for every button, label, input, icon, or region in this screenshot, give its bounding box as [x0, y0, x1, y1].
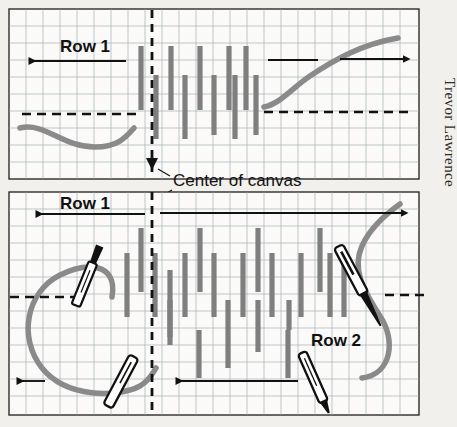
- credit-line: Trevor Lawrence: [436, 78, 457, 248]
- diagram-canvas: Row 1 Center of canvas: [0, 0, 457, 427]
- panel-bottom: Row 1 Row 2: [9, 192, 427, 415]
- panel-top: Row 1: [9, 9, 419, 179]
- label-row-1-bottom: Row 1: [60, 194, 110, 213]
- label-center-of-canvas: Center of canvas: [173, 171, 302, 190]
- label-row-2: Row 2: [311, 331, 361, 350]
- stitch-diagram-figure: Row 1 Center of canvas: [0, 0, 457, 427]
- label-row-1-top: Row 1: [60, 37, 110, 56]
